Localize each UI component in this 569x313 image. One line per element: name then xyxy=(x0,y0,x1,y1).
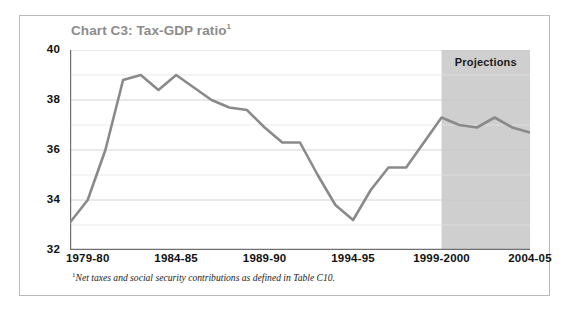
x-axis-tick-label: 1984-85 xyxy=(154,252,198,264)
y-axis-tick-label: 36 xyxy=(34,143,60,155)
y-axis-tick-label: 38 xyxy=(34,93,60,105)
chart-page: Chart C3: Tax-GDP ratio1 Projections 323… xyxy=(0,0,569,313)
line-chart-svg xyxy=(70,50,530,250)
x-axis-tick-label: 1989-90 xyxy=(243,252,287,264)
plot-area xyxy=(70,50,530,250)
projections-label: Projections xyxy=(455,56,517,68)
footnote-text: Net taxes and social security contributi… xyxy=(76,272,335,283)
x-axis-tick-label: 1994-95 xyxy=(331,252,375,264)
chart-title: Chart C3: Tax-GDP ratio1 xyxy=(71,22,231,38)
x-axis-tick-label: 2004-05 xyxy=(508,252,552,264)
x-axis-tick-label: 1999-2000 xyxy=(413,252,470,264)
y-axis-tick-label: 40 xyxy=(34,43,60,55)
y-axis-tick-label: 34 xyxy=(34,193,60,205)
x-axis-tick-label: 1979-80 xyxy=(66,252,110,264)
y-axis-tick-label: 32 xyxy=(34,243,60,255)
chart-footnote: 1Net taxes and social security contribut… xyxy=(72,271,335,283)
chart-title-text: Chart C3: Tax-GDP ratio xyxy=(71,23,227,38)
chart-title-footnote-marker: 1 xyxy=(227,22,232,31)
